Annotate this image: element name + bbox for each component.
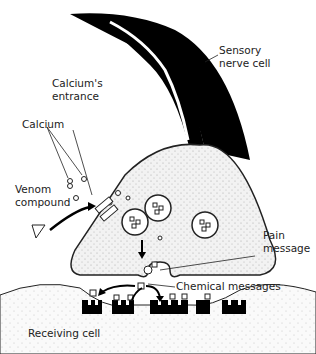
label-calcium: Calcium <box>22 118 64 131</box>
label-line: Calcium's <box>52 77 103 90</box>
label-line: message <box>263 242 310 255</box>
label-receiving-cell: Receiving cell <box>28 327 100 340</box>
receiving-cell <box>0 284 316 354</box>
label-line: Pain <box>263 229 310 242</box>
label-pain-message: Pain message <box>263 229 310 255</box>
label-line: Sensory <box>219 44 271 57</box>
label-line: compound <box>15 196 71 209</box>
label-sensory-nerve-cell: Sensory nerve cell <box>219 44 271 70</box>
label-line: Venom <box>15 183 71 196</box>
label-line: nerve cell <box>219 57 271 70</box>
label-line: entrance <box>52 90 103 103</box>
label-venom-compound: Venom compound <box>15 183 71 209</box>
label-calcium-entrance: Calcium's entrance <box>52 77 103 103</box>
venom-compound-icon <box>32 225 45 238</box>
venom-pain-diagram: Sensory nerve cell Calcium's entrance Ca… <box>0 0 316 354</box>
label-chemical-messages: Chemical messages <box>176 280 281 293</box>
